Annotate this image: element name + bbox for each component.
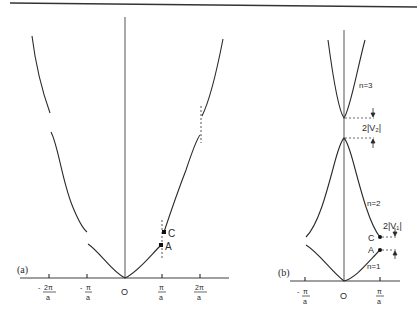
band-label-n1: n=1	[367, 262, 381, 271]
svg-text:a: a	[86, 294, 90, 301]
panel-a-band-2-right	[164, 135, 200, 232]
panel-b-point-C	[378, 235, 382, 239]
panel-a-origin: O	[121, 287, 128, 297]
band-label-n3: n=3	[359, 81, 373, 90]
panel-a	[20, 17, 229, 278]
svg-text:a: a	[377, 298, 381, 305]
gap-label-v1: 2|V₁|	[383, 221, 402, 231]
panel-b-tick-labels: - π a O π a	[297, 288, 384, 305]
svg-text:a: a	[46, 294, 50, 301]
panel-b-label-A: A	[368, 245, 374, 255]
svg-text:-: -	[297, 288, 300, 295]
panel-a-band-3-right	[202, 39, 223, 116]
svg-text:π: π	[159, 284, 164, 291]
panel-a-label-A: A	[165, 241, 172, 252]
svg-text:a: a	[197, 294, 201, 301]
panel-a-tick-labels: - 2π a - π a O π a 2π a	[38, 284, 207, 301]
top-rule	[10, 3, 417, 7]
panel-a-label: (a)	[17, 264, 28, 276]
panel-b	[290, 30, 400, 281]
svg-text:π: π	[377, 288, 382, 295]
band-structure-figure: A C (a) - 2π a - π a O π a 2π a	[0, 0, 417, 312]
band-label-n2: n=2	[367, 199, 381, 208]
panel-b-label: (b)	[278, 267, 290, 279]
panel-b-label-C: C	[368, 233, 375, 243]
svg-text:π: π	[303, 288, 308, 295]
svg-text:-: -	[38, 284, 41, 291]
panel-a-band-2-left	[51, 132, 87, 232]
panel-a-label-C: C	[168, 228, 175, 239]
panel-b-origin: O	[340, 291, 347, 301]
panel-a-band-1	[88, 244, 161, 278]
svg-text:π: π	[86, 284, 91, 291]
panel-b-point-A	[378, 248, 382, 252]
svg-text:2π: 2π	[44, 284, 53, 291]
svg-text:2π: 2π	[195, 284, 204, 291]
panel-a-point-C	[162, 230, 166, 234]
band-n3	[328, 40, 365, 118]
svg-text:a: a	[303, 298, 307, 305]
panel-a-point-A	[159, 243, 163, 247]
svg-text:a: a	[159, 294, 163, 301]
svg-text:-: -	[80, 284, 83, 291]
panel-a-band-3-left	[32, 36, 50, 113]
gap-label-v2: 2|V₂|	[362, 123, 381, 133]
band-n2	[306, 138, 380, 237]
